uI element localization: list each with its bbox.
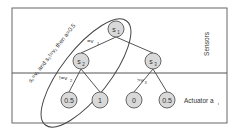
svg-text:s: s [149, 58, 153, 65]
node-s3: s 3 [145, 53, 161, 69]
node-s2: s 2 [73, 53, 89, 69]
svg-text:i: i [218, 101, 219, 106]
leaf-node-3: 0 [126, 92, 142, 108]
svg-text:s: s [77, 58, 81, 65]
svg-text:0.5: 0.5 [162, 97, 172, 104]
svg-text:>v: >v [137, 77, 144, 83]
svg-text:!=v: !=v [59, 75, 67, 81]
leaf-node-1: 0.5 [61, 92, 77, 108]
svg-text:0: 0 [132, 97, 136, 104]
svg-text:0.5: 0.5 [64, 97, 74, 104]
node-s1: s 1 [108, 21, 124, 37]
decision-tree-diagram: s 1 s 2 s 3 0.5 1 0 0.5 =v 1 !=v 2 >v 3 [0, 0, 239, 131]
leaf-node-2: 1 [92, 92, 108, 108]
leaf-node-4: 0.5 [159, 92, 175, 108]
svg-text:s: s [112, 26, 116, 33]
svg-text:Actuator a: Actuator a [184, 97, 214, 104]
svg-text:1: 1 [98, 97, 102, 104]
sensors-label: Sensors [203, 31, 210, 56]
svg-text:=v: =v [87, 38, 94, 44]
